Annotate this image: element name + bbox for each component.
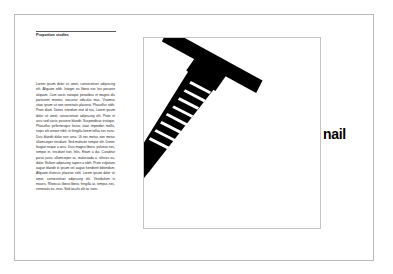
nail-group [144,38,264,228]
section-title: Proportion studies [36,33,116,37]
nail-caption-label: nail [323,127,346,141]
body-paragraph: Lorem ipsum dolor sit amet, consectetuer… [36,82,115,192]
illustration-frame [143,37,321,229]
left-text-column: Proportion studies [36,31,116,37]
title-divider-rule [36,31,116,32]
nail-illustration [144,38,320,228]
page-sheet: Proportion studies Lorem ipsum dolor sit… [14,14,374,261]
